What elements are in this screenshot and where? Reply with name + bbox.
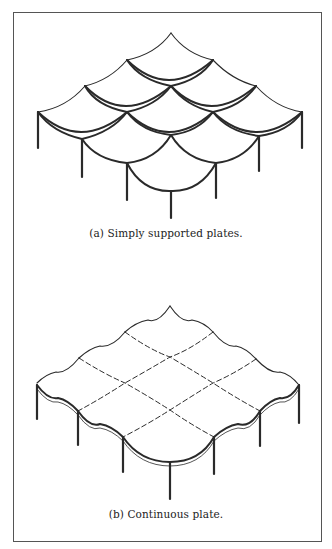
plate-b-back-edges (37, 306, 299, 385)
continuous-plate-diagram (0, 0, 332, 549)
caption-simply-supported: (a) Simply supported plates. (0, 227, 332, 239)
plate-b-dashed-lines (78, 332, 260, 437)
caption-continuous: (b) Continuous plate. (0, 508, 332, 520)
plate-b-columns (37, 385, 299, 499)
